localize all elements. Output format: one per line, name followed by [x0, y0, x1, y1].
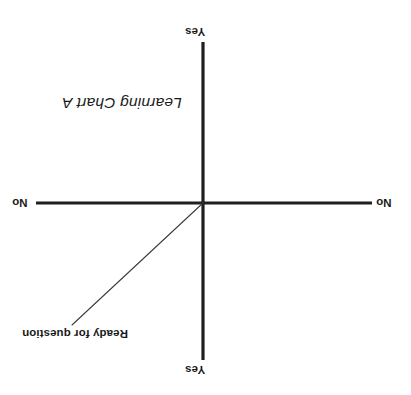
learning-chart-canvas: Yes Yes No No Learning Chart A Ready for… [0, 0, 411, 395]
chart-title: Learning Chart A [62, 95, 182, 111]
axis-label-yes-top: Yes [185, 25, 205, 37]
series-line-ready-for-question [72, 203, 203, 325]
axis-label-no-left: No [12, 196, 28, 208]
axis-label-yes-bottom: Yes [185, 363, 205, 375]
series-label-ready-for-question: Ready for question [22, 327, 128, 339]
axis-label-no-right: No [376, 196, 392, 208]
